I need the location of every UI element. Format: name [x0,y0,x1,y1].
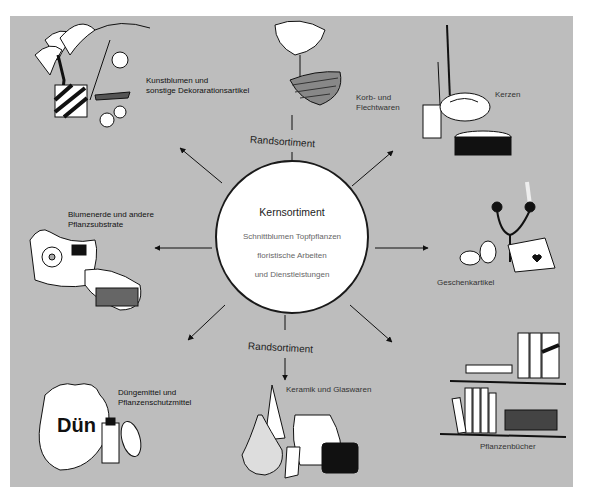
category-label-line: Keramik und Glaswaren [286,385,371,395]
core-assortment-title: Kernsortiment [217,206,367,218]
category-label-line: Düngemittel und [118,388,191,398]
arrow-to-kerzen [352,151,393,186]
category-label-keramik: Keramik und Glaswaren [286,385,371,395]
category-label-kunstblumen: Kunstblumen und sonstige Dekorarationsar… [146,76,249,96]
category-label-line: Korb- und [356,93,400,103]
core-item-line-2: floristische Arbeiten [217,251,367,260]
category-label-korb: Korb- und Flechtwaren [356,93,400,113]
category-label-geschenk: Geschenkartikel [437,278,494,288]
category-label-line: Pflanzenbücher [480,442,536,452]
arrow-to-kunstblumen [180,148,222,183]
arrow-to-buecher [350,305,392,342]
category-label-line: Pflanzenschutzmittel [118,398,191,408]
category-label-line: Kunstblumen und [146,76,249,86]
category-label-kerzen: Kerzen [495,90,520,100]
category-label-line: Pflanzsubstrate [68,220,154,230]
category-label-line: Kerzen [495,90,520,100]
core-item-line-3: und Dienstleistungen [217,270,367,279]
category-label-line: Flechtwaren [356,103,400,113]
category-label-buecher: Pflanzenbücher [480,442,536,452]
core-item-line-1: Schnittblumen Topfpflanzen [217,232,367,241]
arrow-to-duenge [188,305,225,340]
category-label-line: sonstige Dekorarationsartikel [146,86,249,96]
category-label-line: Blumenerde und andere [68,210,154,220]
category-label-duenge: Düngemittel und Pflanzenschutzmittel [118,388,191,408]
category-label-blumenerde: Blumenerde und andere Pflanzsubstrate [68,210,154,230]
core-assortment-circle: Kernsortiment Schnittblumen Topfpflanzen… [215,160,369,314]
category-label-line: Geschenkartikel [437,278,494,288]
